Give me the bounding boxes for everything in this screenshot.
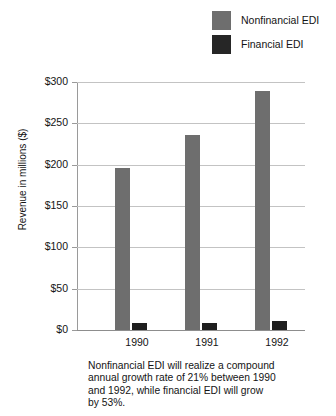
bar-financial-1992	[272, 321, 287, 330]
legend-swatch-icon-nonfinancial	[212, 11, 231, 30]
chart-legend: Nonfinancial EDI Financial EDI	[212, 8, 336, 56]
caption-line-3: and 1992, while financial EDI will grow	[88, 385, 312, 397]
legend-label-financial: Financial EDI	[241, 38, 303, 50]
y-tick-label-0: $0	[56, 324, 68, 335]
bar-group-1991	[177, 82, 237, 330]
bar-group-1992	[247, 82, 307, 330]
y-tick-0	[72, 330, 77, 331]
y-tick-label-250: $250	[45, 117, 68, 128]
bar-financial-1990	[132, 323, 147, 330]
caption-line-2: annual growth rate of 21% between 1990	[88, 372, 312, 384]
y-tick-label-150: $150	[45, 200, 68, 211]
chart-figure: Nonfinancial EDI Financial EDI Revenue i…	[0, 0, 336, 416]
plot-container: Revenue in millions ($) $300 $250 $200 $…	[0, 76, 336, 338]
legend-item-nonfinancial-edi: Nonfinancial EDI	[212, 8, 336, 32]
y-tick-label-50: $50	[50, 283, 68, 294]
bar-series-container	[77, 82, 305, 330]
caption-line-4: by 53%.	[88, 397, 312, 409]
y-tick-label-300: $300	[45, 76, 68, 87]
x-tick-label-1991: 1991	[177, 336, 237, 348]
bar-nonfinancial-1992	[255, 91, 270, 330]
legend-label-nonfinancial: Nonfinancial EDI	[241, 14, 319, 26]
legend-swatch-icon-financial	[212, 35, 231, 54]
chart-caption: Nonfinancial EDI will realize a compound…	[88, 360, 312, 410]
bar-financial-1991	[202, 323, 217, 330]
plot-area: $300 $250 $200 $150 $100 $50 $0	[77, 82, 305, 330]
bar-group-1990	[107, 82, 167, 330]
y-axis-title: Revenue in millions ($)	[17, 110, 28, 250]
legend-item-financial-edi: Financial EDI	[212, 32, 336, 56]
x-tick-label-1990: 1990	[107, 336, 167, 348]
bar-nonfinancial-1990	[115, 168, 130, 330]
x-tick-label-1992: 1992	[247, 336, 307, 348]
x-axis-line	[77, 330, 305, 331]
caption-line-1: Nonfinancial EDI will realize a compound	[88, 360, 312, 372]
y-tick-label-100: $100	[45, 241, 68, 252]
y-tick-label-200: $200	[45, 159, 68, 170]
bar-nonfinancial-1991	[185, 135, 200, 330]
